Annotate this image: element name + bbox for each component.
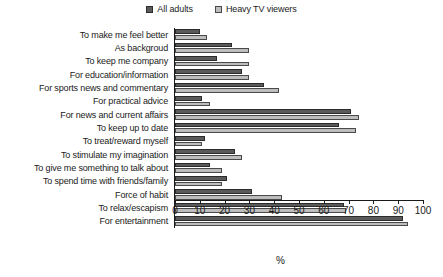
x-tick-label: 80 <box>368 205 379 216</box>
x-tick-label: 20 <box>219 205 230 216</box>
bar-heavy-tv-viewers <box>175 195 282 200</box>
x-tick-mark <box>175 200 176 204</box>
category-label: Force of habit <box>0 188 172 201</box>
bar-all-adults <box>175 176 227 181</box>
x-tick-label: 30 <box>244 205 255 216</box>
x-tick-mark <box>274 200 275 204</box>
x-tick-label: 70 <box>343 205 354 216</box>
bar-heavy-tv-viewers <box>175 182 222 187</box>
bar-group <box>175 175 423 188</box>
x-tick-mark <box>299 200 300 204</box>
x-tick-mark <box>200 200 201 204</box>
x-tick-mark <box>249 200 250 204</box>
category-label: To give me something to talk about <box>0 161 172 174</box>
category-label: For entertainment <box>0 215 172 228</box>
bar-group <box>175 121 423 134</box>
legend-label-heavy-tv-viewers: Heavy TV viewers <box>226 4 297 14</box>
category-label: To make me feel better <box>0 28 172 41</box>
category-label: To treat/reward myself <box>0 135 172 148</box>
category-label: For education/information <box>0 68 172 81</box>
bar-all-adults <box>175 136 205 141</box>
bar-group <box>175 108 423 121</box>
bar-heavy-tv-viewers <box>175 35 207 40</box>
chart-legend: All adults Heavy TV viewers <box>0 4 443 14</box>
bar-group <box>175 148 423 161</box>
bar-group <box>175 95 423 108</box>
x-tick-mark <box>373 200 374 204</box>
bar-all-adults <box>175 83 264 88</box>
category-label: For practical advice <box>0 95 172 108</box>
bar-heavy-tv-viewers <box>175 48 249 53</box>
x-tick-label: 0 <box>172 205 178 216</box>
category-label: To spend time with friends/family <box>0 175 172 188</box>
x-axis-line: 0102030405060708090100 <box>175 200 423 201</box>
bar-group <box>175 215 423 228</box>
bar-all-adults <box>175 43 232 48</box>
x-tick-mark <box>349 200 350 204</box>
x-tick-label: 40 <box>269 205 280 216</box>
bar-all-adults <box>175 69 242 74</box>
x-tick-label: 90 <box>393 205 404 216</box>
bar-heavy-tv-viewers <box>175 75 249 80</box>
x-tick-mark <box>225 200 226 204</box>
category-label: For sports news and commentary <box>0 81 172 94</box>
bar-heavy-tv-viewers <box>175 88 279 93</box>
x-axis-title-text: % <box>276 255 285 266</box>
bar-group <box>175 161 423 174</box>
bar-heavy-tv-viewers <box>175 168 222 173</box>
bar-all-adults <box>175 96 202 101</box>
bar-all-adults <box>175 109 351 114</box>
bar-all-adults <box>175 56 217 61</box>
category-label: To keep up to date <box>0 121 172 134</box>
bar-group <box>175 55 423 68</box>
bar-all-adults <box>175 163 210 168</box>
category-label: To relax/escapism <box>0 201 172 214</box>
bar-all-adults <box>175 216 403 221</box>
legend-swatch-all-adults-icon <box>146 6 153 13</box>
bar-group <box>175 68 423 81</box>
bar-heavy-tv-viewers <box>175 62 249 67</box>
x-tick-label: 10 <box>194 205 205 216</box>
x-axis-title: % <box>0 255 443 266</box>
bar-heavy-tv-viewers <box>175 128 356 133</box>
x-tick-mark <box>423 200 424 204</box>
category-label: To keep me company <box>0 55 172 68</box>
category-label: To stimulate my imagination <box>0 148 172 161</box>
bar-heavy-tv-viewers <box>175 142 202 147</box>
bar-all-adults <box>175 189 252 194</box>
bar-group <box>175 135 423 148</box>
x-tick-mark <box>398 200 399 204</box>
bar-heavy-tv-viewers <box>175 222 408 227</box>
category-axis-labels: To make me feel betterAs backgroudTo kee… <box>0 28 172 228</box>
bar-heavy-tv-viewers <box>175 115 359 120</box>
horizontal-bar-chart: All adults Heavy TV viewers To make me f… <box>0 0 443 277</box>
x-tick-label: 60 <box>318 205 329 216</box>
bar-group <box>175 81 423 94</box>
legend-label-all-adults: All adults <box>157 4 193 14</box>
legend-entry-all-adults: All adults <box>146 4 193 14</box>
bar-all-adults <box>175 149 235 154</box>
plot-area <box>175 28 423 228</box>
category-label: As backgroud <box>0 41 172 54</box>
x-tick-mark <box>324 200 325 204</box>
bar-group <box>175 41 423 54</box>
legend-entry-heavy-tv-viewers: Heavy TV viewers <box>215 4 297 14</box>
x-tick-label: 50 <box>293 205 304 216</box>
x-tick-label: 100 <box>415 205 432 216</box>
bar-all-adults <box>175 29 200 34</box>
bar-heavy-tv-viewers <box>175 155 242 160</box>
bar-heavy-tv-viewers <box>175 102 210 107</box>
legend-swatch-heavy-tv-viewers-icon <box>215 6 222 13</box>
bar-all-adults <box>175 123 339 128</box>
bar-group <box>175 28 423 41</box>
category-label: For news and current affairs <box>0 108 172 121</box>
